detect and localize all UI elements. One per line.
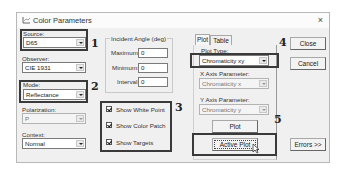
maximum-value: 0: [141, 49, 144, 56]
chevron-down-icon: [76, 140, 84, 147]
observer-dropdown[interactable]: CIE 1931: [22, 62, 86, 73]
minimum-value: 0: [141, 64, 144, 71]
tab-plot-label: Plot: [197, 36, 208, 43]
errors-button-label: Errors >>: [294, 141, 321, 148]
maximum-label: Maximum:: [111, 49, 140, 56]
interval-input[interactable]: 0: [138, 77, 168, 87]
mouse-cursor-icon: [252, 143, 260, 154]
show-color-patch-label[interactable]: Show Color Patch: [116, 122, 166, 129]
chevron-down-icon: [76, 64, 84, 71]
polarization-dropdown[interactable]: P: [22, 113, 86, 124]
plot-button-label: Plot: [229, 123, 240, 130]
mode-dropdown[interactable]: Reflectance: [23, 89, 86, 100]
show-targets-label[interactable]: Show Targets: [116, 139, 153, 146]
window-title: Color Parameters: [33, 16, 92, 25]
minimum-label: Minimum:: [112, 64, 139, 71]
plot-button[interactable]: Plot: [212, 120, 258, 133]
chevron-down-icon: [76, 39, 84, 46]
x-axis-parameter-value: Chromaticity x: [202, 80, 241, 87]
tab-table-label: Table: [213, 37, 229, 44]
title-bar: Color Parameters ×: [17, 13, 329, 28]
maximum-input[interactable]: 0: [138, 48, 168, 58]
source-value: D65: [26, 39, 37, 46]
mode-value: Reflectance: [26, 91, 59, 98]
interval-label: Interval:: [117, 78, 139, 85]
source-dropdown[interactable]: D65: [23, 37, 86, 48]
show-white-point-checkbox[interactable]: [106, 106, 112, 112]
annotation-4: 4: [279, 36, 287, 49]
chevron-down-icon: [259, 57, 267, 64]
source-label: Source:: [23, 30, 44, 37]
show-color-patch-checkbox[interactable]: [106, 122, 112, 128]
mode-label: Mode:: [23, 81, 40, 88]
close-button-label: Close: [300, 40, 317, 47]
x-axis-parameter-dropdown[interactable]: Chromaticity x: [199, 78, 269, 89]
annotation-3: 3: [175, 101, 183, 114]
show-targets-checkbox[interactable]: [106, 139, 112, 145]
tab-plot[interactable]: Plot: [195, 34, 210, 45]
chevron-down-icon: [76, 115, 84, 122]
context-label: Context:: [22, 131, 45, 138]
plot-type-dropdown[interactable]: Chromaticity xy: [199, 55, 269, 66]
errors-button[interactable]: Errors >>: [290, 138, 326, 151]
y-axis-parameter-dropdown[interactable]: Chromaticity y: [199, 104, 269, 115]
context-value: Normal: [25, 140, 45, 147]
y-axis-parameter-label: Y Axis Parameter:: [200, 96, 249, 103]
chevron-down-icon: [76, 91, 84, 98]
cancel-button[interactable]: Cancel: [290, 57, 326, 70]
polarization-value: P: [25, 115, 29, 122]
annotation-1: 1: [91, 37, 99, 50]
close-button[interactable]: Close: [290, 37, 326, 50]
annotation-5: 5: [274, 113, 282, 126]
context-dropdown[interactable]: Normal: [22, 138, 86, 149]
interval-value: 0: [141, 78, 144, 85]
incident-angle-title: Incident Angle (deg): [110, 35, 167, 42]
cancel-button-label: Cancel: [298, 60, 318, 67]
y-axis-parameter-value: Chromaticity y: [202, 106, 241, 113]
active-plot-button-label: Active Plot: [220, 141, 251, 148]
chevron-down-icon: [259, 106, 267, 113]
tab-table[interactable]: Table: [210, 35, 232, 45]
show-white-point-label[interactable]: Show White Point: [116, 106, 165, 113]
minimum-input[interactable]: 0: [138, 63, 168, 73]
annotation-2: 2: [91, 80, 99, 93]
plot-type-value: Chromaticity xy: [202, 57, 244, 64]
chevron-down-icon: [259, 80, 267, 87]
x-axis-parameter-label: X Axis Parameter:: [200, 70, 250, 77]
polarization-label: Polarization:: [22, 106, 56, 113]
app-icon: [22, 17, 30, 24]
observer-label: Observer:: [22, 55, 49, 62]
close-icon[interactable]: ×: [318, 15, 323, 25]
observer-value: CIE 1931: [25, 64, 51, 71]
